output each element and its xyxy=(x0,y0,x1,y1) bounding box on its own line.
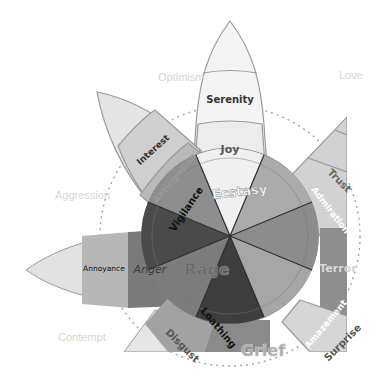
label-terror: Terror xyxy=(319,262,357,275)
label-joy: Joy xyxy=(220,143,240,156)
inner-wheel xyxy=(141,148,319,324)
dyad-label-contempt: Contempt xyxy=(58,331,106,343)
emotion-wheel-diagram: Optimism Love Aggression Contempt Sereni… xyxy=(0,0,392,391)
label-serenity: Serenity xyxy=(206,94,254,105)
label-annoyance: Annoyance xyxy=(83,264,125,273)
dyad-label-optimism: Optimism xyxy=(158,71,204,83)
label-rage: Rage xyxy=(184,260,230,279)
dyad-label-love: Love xyxy=(339,69,363,81)
dyad-label-aggression: Aggression xyxy=(55,189,110,201)
label-anger: Anger xyxy=(133,263,168,276)
label-grief: Grief xyxy=(241,341,286,360)
